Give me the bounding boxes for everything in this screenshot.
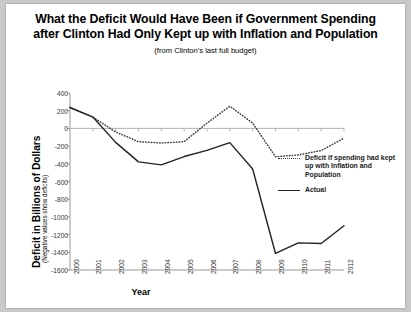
legend-item-projected: Deficit if spending had kept up with Inf… [278,154,398,179]
chart-legend: Deficit if spending had kept up with Inf… [278,154,398,202]
x-tick-label: 2005 [187,259,194,274]
x-tick-label: 2010 [301,259,308,274]
chart-figure: What the Deficit Would Have Been if Gove… [6,4,405,308]
plot-area: Deficit in Billions of Dollars (Negative… [6,4,405,308]
legend-solid-line-icon [278,190,300,191]
x-axis-title: Year [6,287,276,297]
legend-label-actual: Actual [305,186,326,194]
x-tick-label: 2012 [347,259,354,274]
x-tick-label: 2001 [95,259,102,274]
x-tick-label: 2003 [141,259,148,274]
x-tick-label: 2008 [255,259,262,274]
x-tick-label: 2000 [73,259,80,274]
legend-label-projected: Deficit if spending had kept up with Inf… [305,154,398,179]
legend-dotted-line-icon [278,158,300,159]
legend-item-actual: Actual [278,186,398,194]
x-tick-label: 2004 [164,259,171,274]
x-tick-label: 2006 [210,259,217,274]
x-tick-label: 2007 [232,259,239,274]
x-tick-label: 2011 [324,260,331,274]
x-tick-label: 2009 [278,259,285,274]
x-tick-label: 2002 [118,259,125,274]
